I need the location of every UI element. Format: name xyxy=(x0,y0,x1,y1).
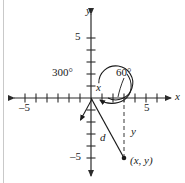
figure-canvas xyxy=(0,0,185,183)
angle-label-60: 60° xyxy=(116,67,131,78)
leg-label-y: y xyxy=(131,126,136,137)
y-tick-label-negative-five: –5 xyxy=(70,151,81,162)
angle-arc-60 xyxy=(100,74,131,103)
angle-60-leader xyxy=(118,78,124,97)
segment-d xyxy=(91,98,124,158)
hypotenuse-label-d: d xyxy=(100,132,106,143)
leg-label-x: x xyxy=(96,82,101,93)
angle-label-300: 300° xyxy=(52,67,73,78)
x-tick-label-negative-five: –5 xyxy=(19,102,30,113)
y-axis xyxy=(87,14,96,176)
y-axis-label: y xyxy=(86,5,91,16)
point-marker xyxy=(122,156,127,161)
x-axis-label: x xyxy=(175,91,180,102)
point-label: (x, y) xyxy=(130,155,153,166)
x-tick-label-five: 5 xyxy=(144,102,150,113)
y-tick-label-five: 5 xyxy=(75,31,81,42)
coordinate-plane-figure: x y –5 5 5 –5 300° 60° x y d (x, y) xyxy=(0,0,185,183)
